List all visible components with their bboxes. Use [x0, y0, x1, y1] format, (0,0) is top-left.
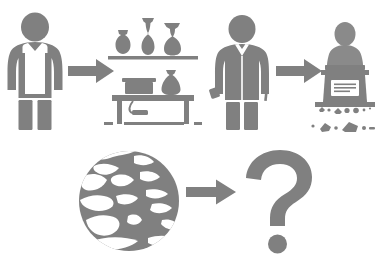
vase-medium: [164, 23, 181, 56]
foot-pedal: [132, 110, 148, 115]
pictogram-canvas: [0, 0, 385, 263]
person-with-hammer-icon: [208, 14, 278, 130]
stone-bust-monument-icon: [306, 18, 384, 132]
arrow-right-icon: [186, 178, 236, 206]
rubble-lower: [311, 122, 375, 132]
workbench: [112, 70, 194, 124]
question-mark-icon: [242, 148, 318, 256]
bust-figure: [325, 22, 365, 70]
person-in-apron-icon: [4, 12, 66, 130]
pottery-workshop-icon: [104, 14, 202, 130]
vase-small: [116, 30, 131, 54]
globe-icon: [76, 146, 182, 256]
rubble-upper: [319, 107, 371, 114]
vase-tall: [142, 18, 155, 55]
shelf-board: [108, 56, 198, 60]
